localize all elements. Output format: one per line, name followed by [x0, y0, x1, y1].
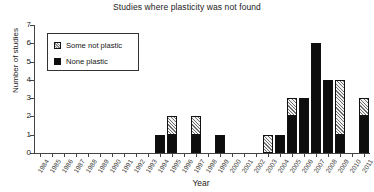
x-tick-mark	[280, 153, 281, 157]
legend-label-some-not-plastic: Some not plastic	[66, 41, 122, 50]
legend-label-none-plastic: None plastic	[66, 57, 108, 66]
x-tick-mark	[340, 153, 341, 157]
x-tick-mark	[292, 153, 293, 157]
y-tick: 4	[34, 80, 38, 81]
y-tick-label: 1	[27, 130, 31, 139]
y-tick: 1	[34, 135, 38, 136]
x-tick-mark	[184, 153, 185, 157]
bar-segment-none-plastic	[191, 135, 200, 153]
bar-segment-some-not-plastic	[335, 80, 344, 135]
bar-2005	[287, 98, 296, 153]
bar-1995	[167, 116, 176, 153]
x-tick-mark	[40, 153, 41, 157]
y-tick: 0	[34, 153, 38, 154]
bar-1994	[155, 135, 164, 153]
bar-segment-none-plastic	[215, 135, 224, 153]
bar-segment-none-plastic	[359, 116, 368, 153]
x-tick-mark	[232, 153, 233, 157]
x-tick-mark	[208, 153, 209, 157]
legend-item-none-plastic: None plastic	[54, 55, 108, 67]
y-tick-label: 6	[27, 38, 31, 47]
y-tick: 5	[34, 62, 38, 63]
x-tick-mark	[304, 153, 305, 157]
bar-segment-some-not-plastic	[359, 98, 368, 116]
x-tick-mark	[160, 153, 161, 157]
y-axis-label: Number of studies	[11, 13, 20, 109]
bar-segment-some-not-plastic	[191, 116, 200, 134]
bar-segment-some-not-plastic	[167, 116, 176, 134]
legend-swatch-solid-icon	[54, 58, 61, 65]
x-tick-mark	[136, 153, 137, 157]
x-tick-mark	[316, 153, 317, 157]
bar-2007	[311, 43, 320, 153]
bar-segment-none-plastic	[167, 135, 176, 153]
y-tick-label: 2	[27, 111, 31, 120]
bar-2006	[299, 98, 308, 153]
x-tick-mark	[328, 153, 329, 157]
bar-segment-none-plastic	[335, 135, 344, 153]
x-tick-mark	[52, 153, 53, 157]
x-tick-mark	[364, 153, 365, 157]
x-tick-mark	[88, 153, 89, 157]
bar-segment-none-plastic	[287, 116, 296, 153]
bar-2011	[359, 98, 368, 153]
bar-segment-none-plastic	[311, 43, 320, 153]
bar-segment-some-not-plastic	[287, 98, 296, 116]
bar-segment-none-plastic	[323, 80, 332, 153]
y-tick: 3	[34, 98, 38, 99]
bar-1997	[191, 116, 200, 153]
x-tick-mark	[100, 153, 101, 157]
x-tick-mark	[124, 153, 125, 157]
bar-segment-none-plastic	[299, 98, 308, 153]
bar-2003	[263, 135, 272, 153]
y-tick-label: 0	[27, 148, 31, 157]
x-tick-mark	[244, 153, 245, 157]
bar-2008	[323, 80, 332, 153]
bar-2009	[335, 80, 344, 153]
bar-segment-none-plastic	[275, 135, 284, 153]
x-tick-mark	[148, 153, 149, 157]
y-tick-label: 7	[27, 20, 31, 29]
y-tick: 7	[34, 25, 38, 26]
x-tick-mark	[112, 153, 113, 157]
bar-segment-none-plastic	[155, 135, 164, 153]
x-tick-mark	[256, 153, 257, 157]
y-tick-label: 3	[27, 93, 31, 102]
y-tick: 6	[34, 43, 38, 44]
bar-2004	[275, 135, 284, 153]
x-tick-mark	[172, 153, 173, 157]
chart-figure: Studies where plasticity was not found N…	[0, 0, 374, 192]
x-tick-mark	[76, 153, 77, 157]
bar-1999	[215, 135, 224, 153]
legend-swatch-hatch-icon	[54, 42, 61, 49]
x-axis-line	[34, 153, 370, 154]
x-tick-mark	[220, 153, 221, 157]
x-tick-mark	[352, 153, 353, 157]
chart-legend: Some not plastic None plastic	[47, 33, 139, 71]
y-tick-label: 5	[27, 57, 31, 66]
legend-item-some-not-plastic: Some not plastic	[54, 39, 122, 51]
y-tick: 2	[34, 116, 38, 117]
y-tick-label: 4	[27, 75, 31, 84]
chart-title: Studies where plasticity was not found	[0, 2, 374, 12]
x-tick-mark	[64, 153, 65, 157]
x-axis-label: Year	[28, 178, 374, 188]
x-tick-mark	[268, 153, 269, 157]
x-tick-mark	[196, 153, 197, 157]
bar-segment-some-not-plastic	[263, 135, 272, 153]
